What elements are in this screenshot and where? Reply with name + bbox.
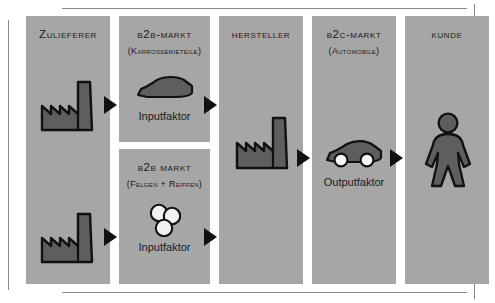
panel-b2c[interactable]: B2C-Markt (Automobile) Outputfaktor bbox=[312, 16, 396, 284]
panel-title-b2c: B2C-Markt bbox=[312, 28, 396, 40]
panel-subtitle-b2c: (Automobile) bbox=[312, 46, 396, 56]
caption-outputfaktor: Outputfaktor bbox=[312, 176, 396, 188]
panel-hersteller[interactable]: Hersteller bbox=[219, 16, 303, 284]
panel-title-kunde: Kunde bbox=[405, 28, 489, 40]
arrow-b2c-to-kunde bbox=[390, 149, 403, 167]
arrow-b2b-karosserie-to-hersteller bbox=[204, 96, 217, 114]
column-kunde: Kunde bbox=[405, 16, 489, 284]
bottom-rule bbox=[62, 292, 467, 293]
arrow-hersteller-to-b2c bbox=[297, 149, 310, 167]
column-zulieferer: Zulieferer bbox=[26, 16, 110, 284]
panel-zulieferer[interactable]: Zulieferer bbox=[26, 16, 110, 284]
factory-icon bbox=[40, 210, 98, 264]
panel-subtitle-b2b-felgen: (Felgen + Reiffen) bbox=[119, 179, 210, 189]
column-b2c: B2C-Markt (Automobile) Outputfaktor bbox=[312, 16, 396, 284]
car-icon bbox=[323, 138, 385, 170]
factory-icon bbox=[40, 78, 98, 132]
panel-title-b2b-felgen: B2B Markt bbox=[119, 161, 210, 173]
panel-title-hersteller: Hersteller bbox=[219, 28, 303, 40]
wheels-icon bbox=[149, 203, 181, 237]
arrow-zulieferer-to-b2b-karosserie bbox=[104, 96, 117, 114]
top-rule bbox=[62, 8, 467, 9]
factory-icon bbox=[235, 114, 293, 170]
caption-inputfaktor-bottom: Inputfaktor bbox=[119, 241, 210, 253]
panel-kunde[interactable]: Kunde bbox=[405, 16, 489, 284]
person-icon bbox=[424, 112, 472, 188]
value-chain-diagram: Zulieferer B2B-Markt (Karrosserieteile) bbox=[26, 16, 463, 284]
arrow-zulieferer-to-b2b-felgen bbox=[104, 228, 117, 246]
column-hersteller: Hersteller bbox=[219, 16, 303, 284]
panel-b2b-karosserie[interactable]: B2B-Markt (Karrosserieteile) Inputfaktor bbox=[119, 16, 210, 142]
column-b2b: B2B-Markt (Karrosserieteile) Inputfaktor… bbox=[119, 16, 210, 284]
panel-subtitle-b2b-karosserie: (Karrosserieteile) bbox=[119, 46, 210, 56]
caption-inputfaktor-top: Inputfaktor bbox=[119, 110, 210, 122]
panel-title-b2b-karosserie: B2B-Markt bbox=[119, 28, 210, 40]
panel-title-zulieferer: Zulieferer bbox=[26, 28, 110, 40]
panel-b2b-felgen[interactable]: B2B Markt (Felgen + Reiffen) Inputfaktor bbox=[119, 149, 210, 284]
left-rule bbox=[8, 20, 9, 290]
car-body-icon bbox=[135, 74, 195, 100]
arrow-b2b-felgen-to-hersteller bbox=[204, 228, 217, 246]
